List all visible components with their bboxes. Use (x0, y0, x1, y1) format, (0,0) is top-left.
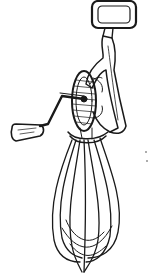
crank-arm (40, 93, 84, 126)
wooden-knob (11, 124, 43, 141)
beater-frame (86, 36, 126, 133)
stray-dots (145, 151, 147, 161)
loop-handle (92, 1, 136, 38)
whisk-loops (52, 138, 119, 272)
